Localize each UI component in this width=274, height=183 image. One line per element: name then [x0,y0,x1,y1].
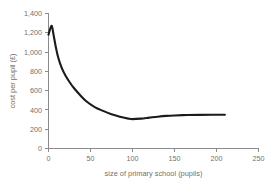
y-axis-tick-labels: 02004006008001,0001,2001,400 [24,9,42,153]
x-tick-label: 250 [253,154,265,163]
y-tick-label: 800 [30,67,42,76]
y-tick-label: 1,400 [24,9,42,18]
data-series-line [49,26,225,119]
y-tick-label: 0 [38,144,42,153]
x-tick-label: 0 [47,154,51,163]
x-axis-title: size of primary school (pupils) [105,169,203,178]
x-axis-ticks [49,149,259,153]
x-tick-label: 150 [169,154,181,163]
y-tick-label: 1,000 [24,48,42,57]
chart-container: 02004006008001,0001,2001,400 05010015020… [0,0,274,183]
x-tick-label: 100 [127,154,139,163]
y-tick-label: 200 [30,125,42,134]
y-tick-label: 1,200 [24,28,42,37]
y-tick-label: 400 [30,106,42,115]
x-axis-tick-labels: 050100150200250 [47,154,265,163]
y-axis-title: cost per pupil (£) [8,53,17,108]
x-tick-label: 200 [211,154,223,163]
x-tick-label: 50 [87,154,95,163]
line-chart: 02004006008001,0001,2001,400 05010015020… [0,0,274,183]
y-tick-label: 600 [30,86,42,95]
